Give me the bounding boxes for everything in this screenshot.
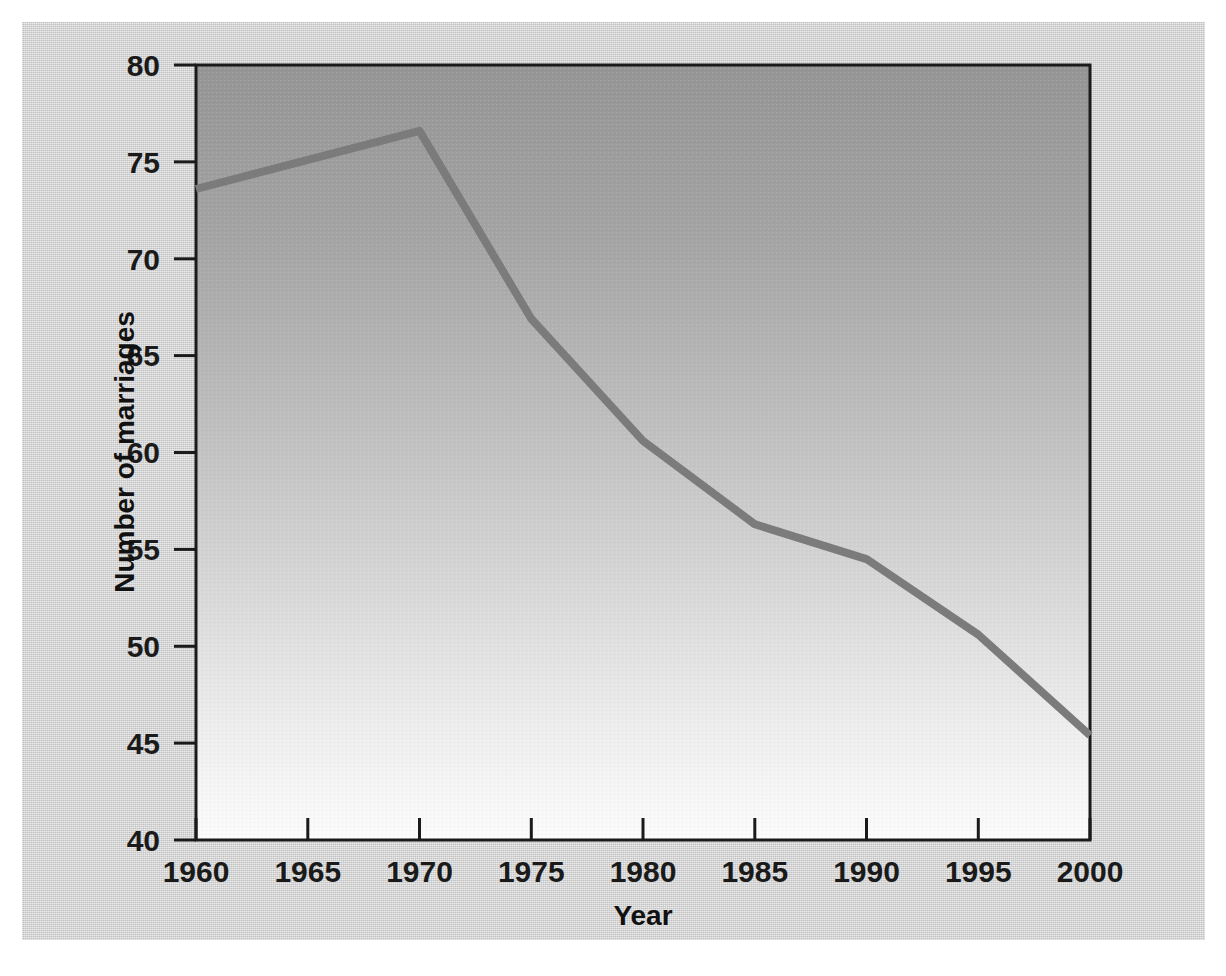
y-tick-label: 45 [127,727,160,760]
x-tick-label: 2000 [1057,855,1124,888]
x-tick-label: 1990 [833,855,900,888]
x-tick-label: 1980 [610,855,677,888]
line-chart: 40 45 50 55 60 65 70 75 80 1960 1965 197… [0,0,1226,976]
y-axis-ticks [174,65,196,840]
y-tick-label: 80 [127,49,160,82]
plot-area-texture [196,65,1090,840]
x-tick-label: 1970 [386,855,453,888]
y-tick-label: 75 [127,146,160,179]
x-axis-tick-labels: 1960 1965 1970 1975 1980 1985 1990 1995 … [163,855,1124,888]
figure-root: 40 45 50 55 60 65 70 75 80 1960 1965 197… [0,0,1226,976]
x-axis-title: Year [613,900,672,931]
x-tick-label: 1960 [163,855,230,888]
y-tick-label: 40 [127,824,160,857]
x-tick-label: 1985 [721,855,788,888]
y-tick-label: 70 [127,243,160,276]
x-tick-label: 1995 [945,855,1012,888]
x-tick-label: 1965 [274,855,341,888]
x-tick-label: 1975 [498,855,565,888]
y-tick-label: 50 [127,630,160,663]
y-axis-title: Number of marriages [109,311,140,593]
